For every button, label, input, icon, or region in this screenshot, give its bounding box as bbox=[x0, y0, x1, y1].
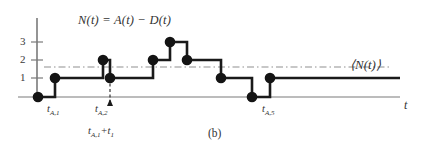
annotation-plus: + bbox=[100, 125, 107, 136]
data-point-marker bbox=[247, 92, 258, 103]
time-label-subscript: A,5 bbox=[265, 109, 275, 117]
step-function-path bbox=[38, 42, 400, 97]
time-label-t-a-5: tA,5 bbox=[262, 104, 274, 115]
data-point-marker bbox=[165, 37, 176, 48]
data-point-marker bbox=[182, 55, 193, 66]
data-point-marker bbox=[265, 73, 276, 84]
data-point-marker bbox=[216, 73, 227, 84]
time-label-subscript: A,2 bbox=[98, 109, 108, 117]
data-point-marker bbox=[148, 55, 159, 66]
annotation-label-t-a-1-plus-t-1: tA,1+t1 bbox=[88, 126, 114, 137]
annotation-arrowhead bbox=[107, 99, 113, 106]
data-point-marker bbox=[98, 55, 109, 66]
data-point-marker bbox=[33, 92, 44, 103]
figure-caption: (b) bbox=[208, 128, 221, 140]
figure-container: N(t) = A(t) − D(t) 3 2 1 t ⟨N(t)⟩ tA,1 t… bbox=[0, 0, 426, 149]
time-label-subscript: A,1 bbox=[50, 109, 60, 117]
data-point-marker bbox=[105, 73, 116, 84]
y-tick-label-2: 2 bbox=[20, 54, 26, 65]
data-point-marker bbox=[50, 73, 61, 84]
mean-value-label: ⟨N(t)⟩ bbox=[350, 58, 381, 71]
plot-title: N(t) = A(t) − D(t) bbox=[78, 14, 171, 27]
annotation-subscript-2: 1 bbox=[110, 131, 114, 139]
annotation-subscript: A,1 bbox=[91, 131, 101, 139]
time-label-t-a-2: tA,2 bbox=[95, 104, 107, 115]
y-tick-label-3: 3 bbox=[20, 36, 26, 47]
y-tick-label-1: 1 bbox=[20, 72, 26, 83]
time-label-t-a-1: tA,1 bbox=[47, 104, 59, 115]
x-axis-label: t bbox=[404, 99, 407, 111]
